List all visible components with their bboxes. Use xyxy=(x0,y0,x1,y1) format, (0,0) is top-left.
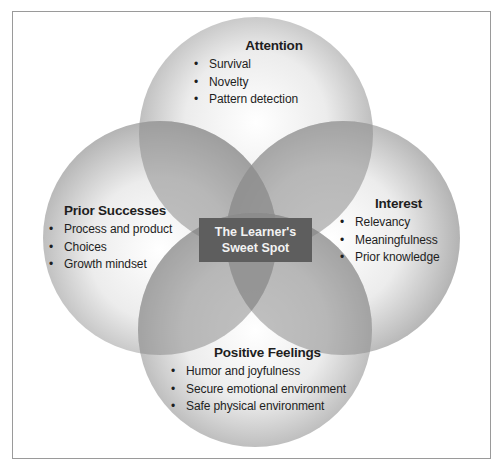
list-item: Relevancy xyxy=(339,214,459,232)
list-item: Prior knowledge xyxy=(339,249,459,267)
list-item: Safe physical environment xyxy=(170,398,360,416)
sweet-spot-box: The Learner's Sweet Spot xyxy=(199,218,312,262)
list-item: Secure emotional environment xyxy=(170,381,360,399)
positive-feelings-label: Positive Feelings Humor and joyfulness S… xyxy=(170,345,360,416)
prior-successes-label: Prior Successes Process and product Choi… xyxy=(48,203,208,274)
list-item: Growth mindset xyxy=(48,256,208,274)
attention-label: Attention Survival Novelty Pattern detec… xyxy=(193,38,333,109)
prior-successes-title: Prior Successes xyxy=(64,203,208,218)
interest-title: Interest xyxy=(375,196,459,211)
interest-label: Interest Relevancy Meaningfulness Prior … xyxy=(339,196,459,267)
list-item: Pattern detection xyxy=(193,91,333,109)
positive-feelings-title: Positive Feelings xyxy=(214,345,360,360)
attention-list: Survival Novelty Pattern detection xyxy=(193,56,333,109)
sweet-spot-line1: The Learner's xyxy=(199,224,312,240)
list-item: Choices xyxy=(48,239,208,257)
list-item: Survival xyxy=(193,56,333,74)
interest-list: Relevancy Meaningfulness Prior knowledge xyxy=(339,214,459,267)
list-item: Novelty xyxy=(193,74,333,92)
positive-feelings-list: Humor and joyfulness Secure emotional en… xyxy=(170,363,360,416)
list-item: Meaningfulness xyxy=(339,232,459,250)
list-item: Process and product xyxy=(48,221,208,239)
attention-title: Attention xyxy=(215,38,333,53)
list-item: Humor and joyfulness xyxy=(170,363,360,381)
prior-successes-list: Process and product Choices Growth minds… xyxy=(48,221,208,274)
sweet-spot-line2: Sweet Spot xyxy=(199,240,312,256)
